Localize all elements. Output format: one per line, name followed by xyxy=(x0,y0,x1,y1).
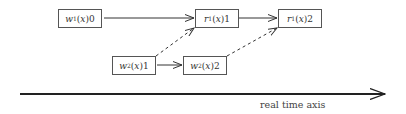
axis-label: real time axis xyxy=(260,99,325,110)
node-w1x0: w1(x)0 xyxy=(58,9,102,28)
edge-w2x1-r1x1 xyxy=(156,28,194,56)
edge-w2x2-r1x2 xyxy=(227,28,277,56)
node-w2x1: w2(x)1 xyxy=(112,56,156,75)
node-w2x2: w2(x)2 xyxy=(183,56,227,75)
node-r1x1: r1(x)1 xyxy=(195,9,239,28)
node-r1x2: r1(x)2 xyxy=(278,9,322,28)
